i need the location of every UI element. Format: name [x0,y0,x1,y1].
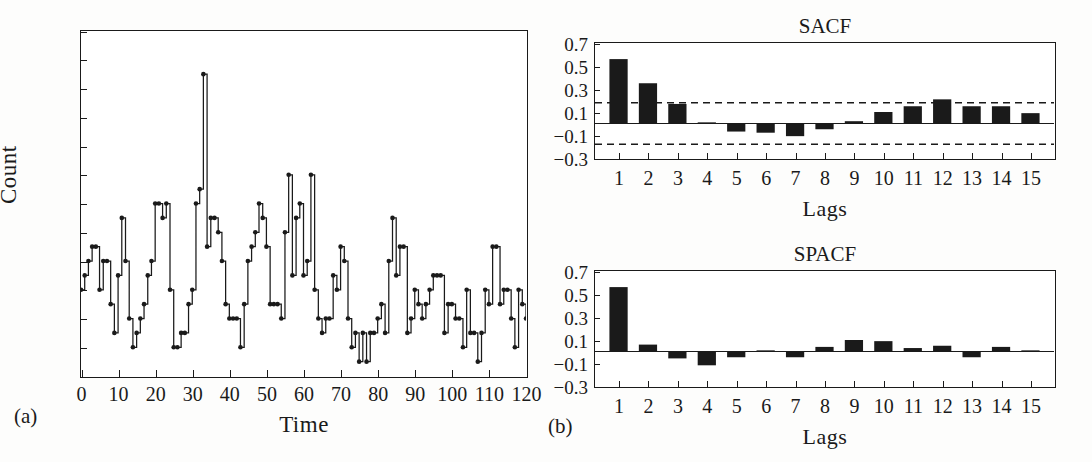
bar-lag-6 [757,124,775,133]
spacf-svg-x-tick-label-7: 7 [791,396,801,416]
x-tick-30 [193,370,194,377]
y-tick-8 [80,262,87,263]
bar-lag-2 [639,83,657,123]
x-tick-90 [415,370,416,377]
sacf-svg-x-tick-9 [854,153,855,159]
x-tick-100 [452,370,453,377]
spacf-svg-x-tick-6 [766,381,767,387]
y-tick-14 [80,175,87,176]
sacf-svg-x-tick-8 [825,153,826,159]
panel-b-correlograms: SACF Lags SPACF Lags 0.70.50.30.1−0.1−0.… [546,0,1092,462]
spacf-svg-x-tick-label-2: 2 [643,396,653,416]
y-tick-24 [80,32,87,33]
spacf-bars [595,271,1054,386]
x-tick-60 [304,370,305,377]
x-tick-label-100: 100 [437,384,467,404]
bar-lag-1 [609,59,627,123]
sacf-svg-x-tick-10 [884,153,885,159]
spacf-svg-y-tick-0.1 [594,341,600,342]
bar-lag-13 [962,352,980,358]
x-tick-label-30: 30 [183,384,203,404]
spacf-svg-x-tick-3 [678,381,679,387]
spacf-svg-x-tick-label-4: 4 [702,396,712,416]
spacf-svg-y-tick-label-0.7: 0.7 [542,262,588,281]
sacf-svg-y-tick-0.7 [594,44,600,45]
sacf-svg-y-tick-−0.1 [594,136,600,137]
y-tick-16 [80,147,87,148]
x-tick-label-120: 120 [512,384,542,404]
spacf-svg-x-tick-7 [796,381,797,387]
bar-lag-3 [668,352,686,359]
spacf-svg-x-tick-label-6: 6 [761,396,771,416]
spacf-svg-x-tick-label-13: 13 [962,396,982,416]
spacf-title: SPACF [594,242,1056,267]
spacf-svg-x-tick-13 [972,381,973,387]
bar-lag-10 [874,112,892,124]
spacf-svg-x-tick-5 [737,381,738,387]
x-tick-label-60: 60 [294,384,314,404]
spacf-svg-x-tick-9 [854,381,855,387]
x-tick-50 [267,370,268,377]
x-tick-label-80: 80 [368,384,388,404]
sacf-svg-y-tick-label-0.7: 0.7 [542,34,588,53]
spacf-x-axis-title: Lags [594,424,1056,450]
timeseries-series [81,31,526,376]
sacf-x-axis-title: Lags [594,196,1056,222]
bar-lag-8 [815,347,833,352]
bar-lag-4 [698,352,716,366]
sacf-svg-x-tick-3 [678,153,679,159]
y-axis-title-count: Count [0,145,22,204]
sacf-svg-y-tick-0.3 [594,90,600,91]
spacf-svg-x-tick-11 [913,381,914,387]
bar-lag-1 [609,287,627,351]
spacf-svg-y-tick-−0.1 [594,364,600,365]
bar-lag-11 [904,106,922,123]
sacf-svg-x-tick-label-14: 14 [992,168,1012,188]
sacf-svg-x-tick-7 [796,153,797,159]
y-tick-4 [80,319,87,320]
spacf-svg-y-tick-0.7 [594,272,600,273]
bar-lag-13 [962,106,980,123]
sacf-svg-x-tick-14 [1002,153,1003,159]
x-tick-label-10: 10 [109,384,129,404]
bar-lag-5 [727,352,745,358]
spacf-svg-y-tick-label-0.3: 0.3 [542,308,588,327]
spacf-svg-x-tick-2 [648,381,649,387]
x-tick-label-40: 40 [220,384,240,404]
spacf-svg-x-tick-label-10: 10 [874,396,894,416]
bar-lag-10 [874,341,892,351]
sacf-svg-x-tick-label-9: 9 [849,168,859,188]
spacf-svg-y-tick-−0.3 [594,387,600,388]
sacf-svg-x-tick-label-11: 11 [904,168,923,188]
x-tick-label-90: 90 [405,384,425,404]
sacf-svg-x-tick-12 [943,153,944,159]
sacf-svg-x-tick-6 [766,153,767,159]
spacf-svg-y-tick-label-0.5: 0.5 [542,285,588,304]
x-tick-10 [119,370,120,377]
spacf-svg-x-tick-label-12: 12 [933,396,953,416]
sacf-plot-frame [594,42,1056,160]
spacf-svg-y-tick-0.5 [594,295,600,296]
y-tick-2 [80,348,87,349]
y-tick-6 [80,290,87,291]
sacf-svg-x-tick-label-3: 3 [673,168,683,188]
timeseries-plot-frame [80,30,528,378]
x-tick-label-70: 70 [331,384,351,404]
spacf-svg-x-tick-12 [943,381,944,387]
spacf-svg-x-tick-label-14: 14 [992,396,1012,416]
bar-lag-7 [786,124,804,137]
bar-lag-14 [992,347,1010,352]
sacf-svg-x-tick-label-13: 13 [962,168,982,188]
x-tick-0 [82,370,83,377]
bar-lag-12 [933,346,951,352]
bar-lag-8 [815,124,833,130]
spacf-svg-x-tick-label-15: 15 [1021,396,1041,416]
bar-lag-3 [668,104,686,124]
sacf-svg-x-tick-label-2: 2 [643,168,653,188]
spacf-svg-x-tick-label-9: 9 [849,396,859,416]
panel-label-b: (b) [548,414,573,439]
sacf-svg-y-tick-label-0.5: 0.5 [542,57,588,76]
sacf-svg-x-tick-5 [737,153,738,159]
x-axis-title-time: Time [80,412,528,438]
sacf-svg-y-tick-label-−0.1: −0.1 [542,126,588,145]
